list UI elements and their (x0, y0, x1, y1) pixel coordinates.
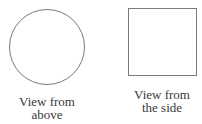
top-view-caption: View from above (2, 95, 92, 121)
square-shape (128, 8, 197, 76)
circle-shape (9, 9, 85, 85)
caption-line: the side (117, 101, 202, 114)
side-view-caption: View from the side (117, 88, 202, 114)
caption-line: above (2, 108, 92, 121)
